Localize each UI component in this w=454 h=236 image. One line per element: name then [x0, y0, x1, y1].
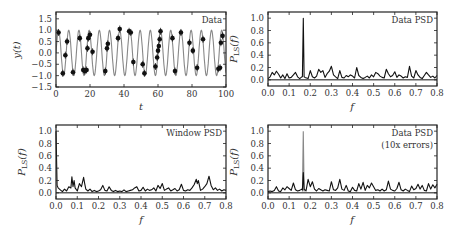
data-point: [61, 71, 66, 76]
data-point: [173, 69, 178, 74]
data-point: [85, 46, 90, 51]
data-point: [131, 60, 136, 65]
x-tick-label: 0.2: [303, 201, 317, 211]
x-tick-label: 0.5: [367, 88, 381, 98]
panel-title: Data: [202, 15, 222, 25]
y-tick-label: 1.0: [250, 13, 264, 23]
x-tick-label: 0.4: [134, 201, 148, 211]
x-tick-label: 20: [85, 89, 96, 99]
data-point: [90, 49, 95, 54]
data-point: [142, 71, 147, 76]
x-tick-label: 0.0: [49, 201, 63, 211]
panel-title: Data PSD: [392, 15, 434, 25]
timeseries-plot-area: [56, 26, 226, 77]
x-tick-label: 0.7: [409, 88, 423, 98]
data-point: [179, 30, 184, 35]
data-point: [219, 40, 224, 45]
data-point: [63, 53, 68, 58]
x-tick-label: 0.1: [70, 201, 84, 211]
x-tick-label: 0.5: [367, 201, 381, 211]
x-axis-label: f: [349, 101, 356, 112]
panel-title-line2: (10x errors): [381, 140, 433, 150]
y-tick-label: −1.0: [31, 71, 52, 81]
y-tick-label: 0.8: [250, 26, 264, 36]
y-tick-label: 0.0: [38, 48, 52, 58]
y-tick-label: 1.0: [38, 126, 52, 136]
data-point: [56, 30, 61, 35]
y-tick-label: −0.5: [31, 59, 52, 69]
x-tick-label: 0.8: [430, 88, 444, 98]
data-point: [157, 37, 162, 42]
data-point: [140, 62, 145, 67]
data-point: [157, 44, 162, 49]
x-tick-label: 0.6: [388, 88, 402, 98]
data-point: [153, 64, 158, 69]
x-tick-label: 0.1: [282, 88, 296, 98]
x-tick-label: 0.4: [346, 88, 360, 98]
data-point: [156, 48, 161, 53]
figure: 020406080100−1.5−1.0−0.50.00.51.01.5 Dat…: [0, 0, 454, 236]
x-tick-label: 0.8: [430, 201, 444, 211]
y-tick-label: 0.8: [250, 139, 264, 149]
x-tick-label: 0.6: [388, 201, 402, 211]
data-point: [129, 30, 134, 35]
x-tick-label: 0.3: [113, 201, 127, 211]
data-point: [187, 40, 192, 45]
y-tick-label: 0.0: [250, 188, 264, 198]
y-axis-label: y(t): [11, 41, 22, 60]
y-tick-label: 0.6: [250, 38, 264, 48]
data-point: [218, 65, 223, 70]
panel-title-line1: Data PSD: [392, 128, 434, 138]
x-tick-label: 0.3: [325, 88, 339, 98]
y-tick-label: 0.6: [250, 151, 264, 161]
panel-title: Window PSD: [166, 128, 222, 138]
data-point: [155, 55, 160, 60]
data-point: [158, 29, 163, 34]
data-point: [88, 32, 93, 37]
data-point: [117, 27, 122, 32]
x-tick-label: 0.0: [261, 201, 275, 211]
y-tick-label: 0.0: [250, 75, 264, 85]
panel-data-psd: 0.00.10.20.30.40.50.60.70.80.00.20.40.60…: [228, 12, 444, 112]
y-tick-label: 0.4: [250, 163, 264, 173]
data-point: [195, 65, 200, 70]
y-axis-label: PLS(f): [228, 148, 241, 177]
data-point: [105, 46, 110, 51]
x-axis-label: f: [349, 214, 356, 225]
x-tick-label: 60: [153, 89, 164, 99]
y-tick-label: 1.5: [38, 14, 52, 24]
x-tick-label: 0.3: [325, 201, 339, 211]
y-tick-label: 0.5: [38, 37, 52, 47]
y-tick-label: 0.4: [250, 50, 264, 60]
y-tick-label: 0.0: [38, 188, 52, 198]
data-point: [106, 42, 111, 47]
data-point: [65, 39, 70, 44]
y-axis-label: PLS(f): [228, 35, 241, 64]
x-tick-label: 0.2: [303, 88, 317, 98]
y-tick-label: 0.6: [38, 151, 52, 161]
x-tick-label: 100: [218, 89, 234, 99]
data-point: [71, 70, 76, 75]
y-tick-label: 1.0: [250, 126, 264, 136]
y-tick-label: 0.2: [38, 176, 52, 186]
x-tick-label: 0.5: [155, 201, 169, 211]
y-tick-label: 0.2: [250, 176, 264, 186]
panel-data-timeseries: 020406080100−1.5−1.0−0.50.00.51.01.5 Dat…: [11, 12, 234, 112]
x-tick-label: 0: [53, 89, 58, 99]
x-tick-label: 40: [119, 89, 130, 99]
x-axis-label: f: [138, 214, 145, 225]
x-tick-label: 0.2: [92, 201, 106, 211]
data-point: [201, 37, 206, 42]
data-point: [116, 36, 121, 41]
data-point: [170, 36, 175, 41]
x-tick-label: 0.7: [409, 201, 423, 211]
x-tick-label: 0.4: [346, 201, 360, 211]
x-tick-label: 80: [187, 89, 198, 99]
data-point: [84, 68, 89, 73]
data-point: [103, 69, 108, 74]
x-tick-label: 0.1: [282, 201, 296, 211]
x-tick-label: 0.6: [177, 201, 191, 211]
psd-plot-area: [268, 18, 437, 80]
x-tick-label: 0.7: [198, 201, 212, 211]
data-point: [78, 36, 83, 41]
